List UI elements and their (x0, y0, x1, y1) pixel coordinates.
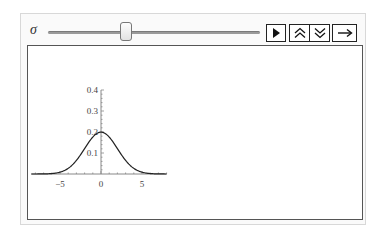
faster-button[interactable] (289, 24, 310, 42)
play-button[interactable] (266, 24, 286, 42)
double-chevron-up-icon (294, 27, 306, 39)
sigma-slider-track[interactable] (48, 31, 260, 34)
right-arrow-icon (337, 28, 353, 38)
plot-area (27, 45, 363, 220)
double-chevron-down-icon (314, 27, 326, 39)
direction-button[interactable] (332, 24, 357, 42)
sigma-slider-thumb[interactable] (120, 22, 132, 41)
play-icon (271, 27, 281, 39)
sigma-label: σ (30, 22, 37, 38)
slower-button[interactable] (309, 24, 330, 42)
